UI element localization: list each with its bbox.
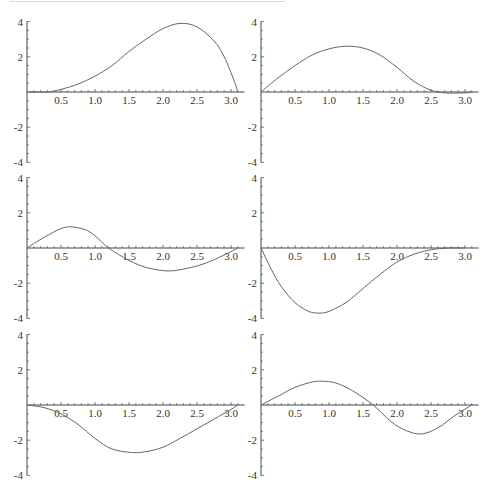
plot-grid: 0.51.01.52.02.53.042-2-40.51.01.52.02.53… <box>0 0 493 494</box>
x-tick-label: 1.0 <box>322 94 336 106</box>
y-tick-label: 2 <box>18 207 24 219</box>
x-tick-label: 2.5 <box>190 94 204 106</box>
y-tick-label: 2 <box>18 51 24 63</box>
y-tick-label: -4 <box>248 156 258 168</box>
plot-panel-row1-col2: 0.51.01.52.02.53.042-2-4 <box>248 16 479 169</box>
y-tick-label: -4 <box>248 469 258 481</box>
x-tick-label: 1.0 <box>322 407 336 419</box>
x-tick-label: 2.5 <box>424 94 438 106</box>
y-tick-label: -2 <box>248 121 257 133</box>
x-tick-label: 1.5 <box>122 94 136 106</box>
y-tick-label: -4 <box>248 312 258 324</box>
x-tick-label: 1.0 <box>88 250 102 262</box>
plot-panel-row2-col2: 0.51.01.52.02.53.042-2-4 <box>248 172 479 325</box>
plot-panel-row3-col2: 0.51.01.52.02.53.042-2-4 <box>248 329 479 482</box>
y-tick-label: 4 <box>18 329 24 341</box>
y-tick-label: 2 <box>252 364 258 376</box>
y-tick-label: -2 <box>14 121 23 133</box>
x-tick-label: 3.0 <box>458 94 472 106</box>
x-tick-label: 3.0 <box>224 94 238 106</box>
y-tick-label: -2 <box>248 277 257 289</box>
y-tick-label: -4 <box>14 156 24 168</box>
x-tick-label: 1.5 <box>356 94 370 106</box>
x-tick-label: 1.5 <box>122 407 136 419</box>
x-tick-label: 2.0 <box>156 250 170 262</box>
data-curve <box>261 46 472 93</box>
x-tick-label: 2.5 <box>424 250 438 262</box>
x-tick-label: 0.5 <box>54 94 68 106</box>
x-tick-label: 2.0 <box>390 407 404 419</box>
x-tick-label: 2.5 <box>190 407 204 419</box>
y-tick-label: 4 <box>18 16 24 28</box>
y-tick-label: -4 <box>14 469 24 481</box>
y-tick-label: 4 <box>252 172 258 184</box>
x-tick-label: 1.5 <box>356 250 370 262</box>
y-tick-label: 4 <box>252 329 258 341</box>
data-curve <box>27 23 238 92</box>
x-tick-label: 0.5 <box>288 407 302 419</box>
x-tick-label: 2.0 <box>390 94 404 106</box>
y-tick-label: 4 <box>252 16 258 28</box>
y-tick-label: -4 <box>14 312 24 324</box>
x-tick-label: 2.0 <box>390 250 404 262</box>
x-tick-label: 1.0 <box>88 94 102 106</box>
x-tick-label: 2.5 <box>190 250 204 262</box>
x-tick-label: 2.0 <box>156 94 170 106</box>
y-tick-label: 4 <box>18 172 24 184</box>
plot-panel-row3-col1: 0.51.01.52.02.53.042-2-4 <box>14 329 245 482</box>
data-curve <box>27 227 238 271</box>
x-tick-label: 2.0 <box>156 407 170 419</box>
y-tick-label: -2 <box>14 277 23 289</box>
y-tick-label: 2 <box>252 207 258 219</box>
y-tick-label: -2 <box>248 434 257 446</box>
x-tick-label: 0.5 <box>288 94 302 106</box>
x-tick-label: 1.0 <box>88 407 102 419</box>
x-tick-label: 1.0 <box>322 250 336 262</box>
x-tick-label: 3.0 <box>458 250 472 262</box>
y-tick-label: 2 <box>18 364 24 376</box>
x-tick-label: 0.5 <box>54 250 68 262</box>
x-tick-label: 2.5 <box>424 407 438 419</box>
y-tick-label: -2 <box>14 434 23 446</box>
y-tick-label: 2 <box>252 51 258 63</box>
plot-panel-row1-col1: 0.51.01.52.02.53.042-2-4 <box>14 16 245 169</box>
x-tick-label: 0.5 <box>288 250 302 262</box>
plot-panel-row2-col1: 0.51.01.52.02.53.042-2-4 <box>14 172 245 325</box>
x-tick-label: 1.5 <box>356 407 370 419</box>
